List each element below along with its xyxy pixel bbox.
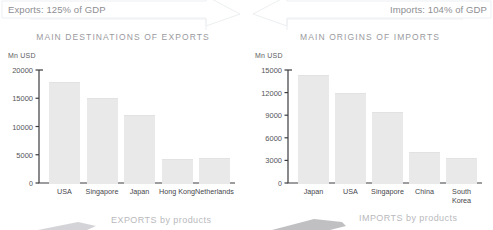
imports-ytick-label: 3000: [247, 156, 282, 165]
exports-axes: [0, 30, 246, 212]
exports-ytick-label: 20000: [0, 66, 33, 75]
imports-ytick-label: 12000: [247, 88, 282, 97]
left-box-outline: [30, 19, 206, 30]
imports-plot-area: 03000600090001200015000JapanUSASingapore…: [247, 30, 493, 212]
imports-bar: [335, 93, 366, 184]
exports-plot-area: 05000100001500020000USASingaporeJapanHon…: [0, 30, 246, 212]
exports-ytick-label: 5000: [0, 150, 33, 159]
exports-bar: [124, 115, 155, 184]
exports-bar: [49, 82, 80, 184]
exports-gdp-label: Exports: 125% of GDP: [8, 4, 106, 15]
right-box-outline: [287, 19, 463, 30]
imports-axes: [247, 30, 493, 212]
exports-bar: [87, 98, 118, 184]
exports-products-arrow-icon: [38, 214, 98, 230]
imports-chart-panel: MAIN ORIGINS OF IMPORTS Mn USD 030006000…: [247, 30, 493, 212]
imports-ytick-label: 0: [247, 180, 282, 187]
imports-ytick-label: 15000: [247, 66, 282, 75]
exports-bar: [199, 158, 230, 184]
infographic-page: Exports: 125% of GDP Imports: 104% of GD…: [0, 0, 493, 230]
imports-bar: [409, 152, 440, 184]
imports-by-products-label: IMPORTS by products: [359, 213, 457, 223]
imports-gdp-label: Imports: 104% of GDP: [390, 4, 487, 15]
exports-ytick-label: 0: [0, 180, 33, 187]
exports-ytick-label: 15000: [0, 94, 33, 103]
exports-bar: [162, 159, 193, 184]
imports-products-arrow-icon: [272, 213, 350, 230]
imports-bar: [446, 158, 477, 184]
banner-arrows: Exports: 125% of GDP Imports: 104% of GD…: [0, 0, 493, 30]
imports-ytick-label: 6000: [247, 133, 282, 142]
exports-chart-panel: MAIN DESTINATIONS OF EXPORTS Mn USD 0500…: [0, 30, 246, 212]
imports-bar: [298, 75, 329, 184]
exports-ytick-label: 10000: [0, 122, 33, 131]
exports-xtick-label: Netherlands: [190, 188, 239, 197]
imports-bar: [372, 112, 403, 184]
imports-xtick-label: South Korea: [437, 188, 486, 205]
exports-by-products-label: EXPORTS by products: [111, 215, 211, 225]
imports-ytick-label: 9000: [247, 111, 282, 120]
